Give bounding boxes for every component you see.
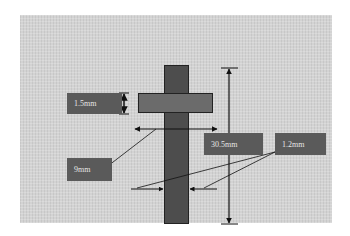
label-wall-thickness: 1.2mm bbox=[275, 133, 326, 155]
flange-width-arrow bbox=[104, 129, 217, 169]
label-total-length: 30.5mm bbox=[204, 133, 263, 155]
dimension-arrows bbox=[0, 0, 350, 236]
wall-thickness-arrows bbox=[131, 152, 275, 189]
label-flange-width: 9mm bbox=[67, 158, 112, 181]
label-flange-thickness: 1.5mm bbox=[67, 93, 122, 114]
